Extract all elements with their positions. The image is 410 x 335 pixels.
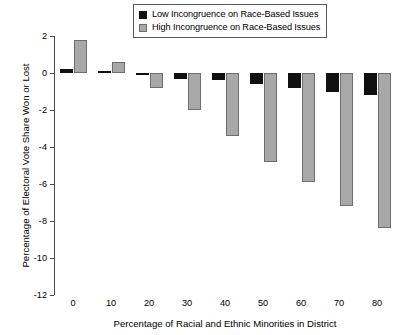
bar-high-incongruence-0 — [74, 40, 87, 73]
bar-low-incongruence-0 — [60, 69, 73, 73]
y-tick-mark — [50, 36, 54, 37]
y-tick-mark — [50, 110, 54, 111]
bar-low-incongruence-30 — [174, 73, 187, 79]
legend-item-low: Low Incongruence on Race-Based Issues — [139, 8, 320, 21]
y-tick-mark — [50, 147, 54, 148]
y-tick-label: -2 — [39, 105, 47, 115]
bar-high-incongruence-20 — [150, 73, 163, 88]
bar-low-incongruence-80 — [364, 73, 377, 95]
bar-high-incongruence-10 — [112, 62, 125, 73]
x-tick-label: 10 — [106, 298, 116, 308]
bar-low-incongruence-50 — [250, 73, 263, 84]
bar-high-incongruence-50 — [264, 73, 277, 162]
y-tick-label: -4 — [39, 142, 47, 152]
x-tick-label: 70 — [334, 298, 344, 308]
x-tick-label: 20 — [144, 298, 154, 308]
bar-high-incongruence-60 — [302, 73, 315, 182]
bar-low-incongruence-70 — [326, 73, 339, 92]
x-tick-label: 80 — [372, 298, 382, 308]
bar-high-incongruence-70 — [340, 73, 353, 206]
bar-low-incongruence-20 — [136, 73, 149, 75]
legend-swatch-high-incongruence — [139, 24, 147, 32]
y-tick-label: 2 — [42, 31, 47, 41]
x-tick-label: 40 — [220, 298, 230, 308]
bar-low-incongruence-10 — [98, 71, 111, 73]
y-tick-label: -10 — [34, 253, 47, 263]
bar-high-incongruence-80 — [378, 73, 391, 228]
y-tick-mark — [50, 184, 54, 185]
x-tick-label: 60 — [296, 298, 306, 308]
y-tick-label: -6 — [39, 179, 47, 189]
y-axis-title: Percentage of Electoral Vote Share Won o… — [20, 36, 31, 295]
x-tick-label: 30 — [182, 298, 192, 308]
y-tick-mark — [50, 73, 54, 74]
legend-swatch-low-incongruence — [139, 11, 147, 19]
bar-low-incongruence-40 — [212, 73, 225, 80]
legend-item-high: High Incongruence on Race-Based Issues — [139, 21, 320, 34]
y-tick-mark — [50, 258, 54, 259]
x-axis-title: Percentage of Racial and Ethnic Minoriti… — [54, 318, 396, 329]
bar-chart-figure: Low Incongruence on Race-Based Issues Hi… — [0, 0, 410, 335]
y-tick-label: -12 — [34, 290, 47, 300]
y-axis-line — [54, 36, 55, 295]
legend-label-low-incongruence: Low Incongruence on Race-Based Issues — [152, 9, 318, 20]
plot-area: 20-2-4-6-8-10-12 01020304050607080 Perce… — [54, 36, 396, 295]
y-tick-label: 0 — [42, 68, 47, 78]
bar-high-incongruence-40 — [226, 73, 239, 136]
bar-high-incongruence-30 — [188, 73, 201, 110]
y-tick-label: -8 — [39, 216, 47, 226]
bar-low-incongruence-60 — [288, 73, 301, 88]
y-tick-mark — [50, 221, 54, 222]
x-tick-label: 50 — [258, 298, 268, 308]
x-tick-label: 0 — [70, 298, 75, 308]
legend-label-high-incongruence: High Incongruence on Race-Based Issues — [152, 22, 320, 33]
y-tick-mark — [50, 295, 54, 296]
chart-legend: Low Incongruence on Race-Based Issues Hi… — [133, 4, 327, 38]
